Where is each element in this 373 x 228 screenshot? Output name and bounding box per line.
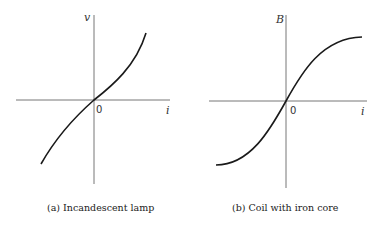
- figure-canvas: v 0 i (a) Incandescent lamp B 0 i (b) Co…: [0, 0, 373, 228]
- figure-b-y-label: B: [275, 13, 284, 26]
- figure-b-x-label: i: [361, 105, 365, 118]
- figure-a-origin-label: 0: [96, 104, 102, 115]
- figure-a-y-label: v: [84, 11, 91, 24]
- figure-b-caption: (b) Coil with iron core: [232, 202, 339, 213]
- figure-b-coil-iron-core: B 0 i (b) Coil with iron core: [209, 13, 367, 213]
- figure-b-origin-label: 0: [290, 105, 296, 116]
- figure-a-incandescent-lamp: v 0 i (a) Incandescent lamp: [16, 11, 170, 213]
- figure-a-x-label: i: [166, 104, 170, 117]
- figure-a-caption: (a) Incandescent lamp: [47, 202, 154, 213]
